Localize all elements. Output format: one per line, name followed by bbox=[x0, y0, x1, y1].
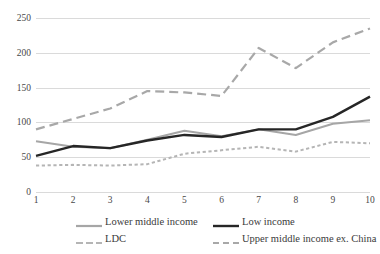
x-axis-tick-label: 2 bbox=[71, 195, 76, 205]
x-axis-tick-label: 3 bbox=[108, 195, 113, 205]
y-axis-tick-label: 150 bbox=[17, 83, 31, 93]
legend-item-low-income[interactable]: Low income bbox=[213, 216, 295, 227]
y-axis-tick-label: 250 bbox=[17, 13, 31, 23]
x-axis-tick-label: 5 bbox=[182, 195, 187, 205]
x-axis-labels: 12345678910 bbox=[36, 193, 370, 209]
clipped-caption bbox=[0, 0, 380, 2]
y-axis-tick-label: 100 bbox=[17, 117, 31, 127]
y-axis-tick-label: 0 bbox=[26, 187, 31, 197]
legend-label-upper-middle-income-ex-china: Upper middle income ex. China bbox=[242, 233, 376, 244]
x-axis-tick-label: 6 bbox=[219, 195, 224, 205]
x-axis-tick-label: 10 bbox=[365, 195, 375, 205]
chart-legend: Lower middle income Low income LDC Upper… bbox=[0, 214, 380, 254]
y-axis-tick-label: 50 bbox=[22, 152, 32, 162]
legend-swatch-ldc bbox=[76, 234, 102, 244]
plot-area bbox=[36, 18, 370, 192]
legend-item-ldc[interactable]: LDC bbox=[76, 233, 126, 244]
legend-item-lower-middle-income[interactable]: Lower middle income bbox=[76, 216, 198, 227]
x-axis-tick-label: 1 bbox=[34, 195, 39, 205]
series-layer bbox=[36, 18, 370, 192]
legend-label-ldc: LDC bbox=[105, 233, 126, 244]
legend-label-lower-middle-income: Lower middle income bbox=[105, 216, 198, 227]
legend-label-low-income: Low income bbox=[242, 216, 295, 227]
x-axis-tick-label: 4 bbox=[145, 195, 150, 205]
legend-swatch-low-income bbox=[213, 217, 239, 227]
legend-item-upper-middle-income-ex-china[interactable]: Upper middle income ex. China bbox=[213, 233, 376, 244]
legend-swatch-lower-middle-income bbox=[76, 217, 102, 227]
series-line bbox=[36, 28, 370, 129]
x-axis-tick-label: 8 bbox=[293, 195, 298, 205]
x-axis-tick-label: 7 bbox=[256, 195, 261, 205]
series-line bbox=[36, 120, 370, 148]
series-line bbox=[36, 97, 370, 156]
series-line bbox=[36, 142, 370, 166]
y-axis-labels: 050100150200250 bbox=[0, 0, 36, 192]
y-axis-tick-label: 200 bbox=[17, 48, 31, 58]
x-axis-tick-label: 9 bbox=[331, 195, 336, 205]
chart-figure: 050100150200250 12345678910 Lower middle… bbox=[0, 0, 380, 254]
legend-swatch-upper-middle-income-ex-china bbox=[213, 234, 239, 244]
